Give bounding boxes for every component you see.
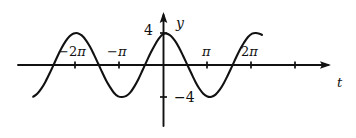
y-axis-label: y <box>176 16 184 30</box>
y-tick-label-minus-4: −4 <box>174 90 195 104</box>
tick-coeff: 2 <box>69 44 77 59</box>
x-tick-label-minus-pi: −π <box>107 45 126 58</box>
axes-group <box>18 12 331 126</box>
y-tick-label-4: 4 <box>144 23 153 37</box>
x-tick-label-minus-2pi: −2π <box>58 45 86 58</box>
x-tick-label-2pi: 2π <box>241 45 258 58</box>
tick-sign: − <box>58 44 69 59</box>
t-axis-label: t <box>337 76 342 89</box>
pi-glyph: π <box>118 44 127 59</box>
tick-sign: − <box>107 44 118 59</box>
x-tick-label-pi: π <box>202 45 211 58</box>
pi-glyph: π <box>202 44 211 59</box>
pi-glyph: π <box>249 44 258 59</box>
math-graph-figure: y t 4 −4 −2π −π π 2π <box>0 0 356 138</box>
pi-glyph: π <box>77 44 86 59</box>
